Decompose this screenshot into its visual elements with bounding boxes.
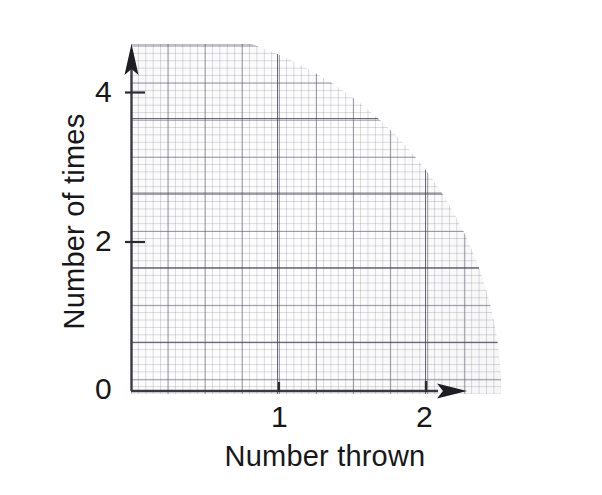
x-axis-title: Number thrown: [0, 440, 602, 473]
grid-major: [131, 44, 567, 394]
y-axis-title: Number of times: [58, 62, 91, 382]
graph-figure: 0 2 4 1 2 Number thrown Number of times: [0, 0, 602, 495]
x-axis-tick-label-2: 2: [416, 402, 433, 432]
x-axis-tick-label-1: 1: [271, 402, 288, 432]
y-axis-tick-label-2: 2: [95, 226, 112, 256]
y-axis-tick-label-4: 4: [95, 77, 112, 107]
graph-paper-sheet: [131, 44, 567, 394]
y-axis-tick-label-0: 0: [95, 374, 112, 404]
